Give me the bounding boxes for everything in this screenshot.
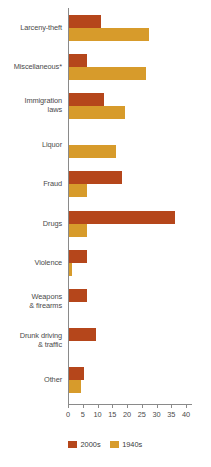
bar-2000s xyxy=(69,367,84,380)
bar-row: Weapons& firearms xyxy=(0,282,211,321)
x-tick-label: 20 xyxy=(123,410,131,419)
x-tick-label: 0 xyxy=(66,410,70,419)
bar-1940s xyxy=(69,67,146,80)
bar-row: Drugs xyxy=(0,204,211,243)
x-tick-label: 35 xyxy=(167,410,175,419)
bar-row: Other xyxy=(0,361,211,400)
category-label: Other xyxy=(0,376,62,385)
bar-row: Violence xyxy=(0,243,211,282)
bar-2000s xyxy=(69,15,101,28)
chart-legend: 2000s1940s xyxy=(68,440,142,449)
x-axis: 0510152025303540 xyxy=(0,404,211,434)
x-tick-label: 10 xyxy=(93,410,101,419)
bar-row: Drunk driving& traffic xyxy=(0,322,211,361)
legend-swatch xyxy=(68,441,77,448)
bar-group xyxy=(69,47,211,86)
x-tick xyxy=(98,404,99,408)
bar-2000s xyxy=(69,171,122,184)
category-label: Immigrationlaws xyxy=(0,97,62,114)
category-label: Violence xyxy=(0,258,62,267)
legend-item[interactable]: 1940s xyxy=(110,440,143,449)
bar-1940s xyxy=(69,380,81,393)
bar-1940s xyxy=(69,106,125,119)
category-label: Weapons& firearms xyxy=(0,293,62,310)
x-tick xyxy=(157,404,158,408)
x-tick xyxy=(142,404,143,408)
bar-1940s xyxy=(69,224,87,237)
bar-row: Immigrationlaws xyxy=(0,86,211,125)
bar-2000s xyxy=(69,289,87,302)
bar-group xyxy=(69,165,211,204)
bar-2000s xyxy=(69,93,104,106)
bar-row: Fraud xyxy=(0,165,211,204)
legend-label: 1940s xyxy=(122,440,142,449)
bar-group xyxy=(69,282,211,321)
x-tick xyxy=(68,404,69,408)
horizontal-bar-chart: Larceny-theftMiscellaneous*Immigrationla… xyxy=(0,0,211,467)
x-tick xyxy=(127,404,128,408)
bar-group xyxy=(69,126,211,165)
bar-group xyxy=(69,86,211,125)
legend-item[interactable]: 2000s xyxy=(68,440,101,449)
x-tick-label: 30 xyxy=(152,410,160,419)
bar-2000s xyxy=(69,328,96,341)
x-tick-label: 25 xyxy=(138,410,146,419)
legend-swatch xyxy=(110,441,119,448)
x-tick-label: 5 xyxy=(81,410,85,419)
bar-group xyxy=(69,8,211,47)
x-tick xyxy=(83,404,84,408)
x-tick xyxy=(112,404,113,408)
bar-2000s xyxy=(69,250,87,263)
category-label: Drunk driving& traffic xyxy=(0,333,62,350)
bar-group xyxy=(69,243,211,282)
x-axis-line xyxy=(68,404,192,405)
bar-row: Larceny-theft xyxy=(0,8,211,47)
category-label: Fraud xyxy=(0,180,62,189)
category-label: Liquor xyxy=(0,141,62,150)
bar-group xyxy=(69,361,211,400)
category-label: Miscellaneous* xyxy=(0,62,62,71)
bar-row: Liquor xyxy=(0,126,211,165)
x-tick xyxy=(171,404,172,408)
bar-2000s xyxy=(69,211,175,224)
category-label: Drugs xyxy=(0,219,62,228)
bar-1940s xyxy=(69,184,87,197)
bar-1940s xyxy=(69,145,116,158)
x-tick-label: 40 xyxy=(182,410,190,419)
x-tick-label: 15 xyxy=(108,410,116,419)
plot-area: Larceny-theftMiscellaneous*Immigrationla… xyxy=(0,0,211,400)
bar-1940s xyxy=(69,263,72,276)
bar-1940s xyxy=(69,28,149,41)
bar-group xyxy=(69,204,211,243)
bar-row: Miscellaneous* xyxy=(0,47,211,86)
legend-label: 2000s xyxy=(81,440,101,449)
bar-rows: Larceny-theftMiscellaneous*Immigrationla… xyxy=(0,8,211,400)
bar-group xyxy=(69,322,211,361)
x-tick xyxy=(186,404,187,408)
category-label: Larceny-theft xyxy=(0,23,62,32)
bar-2000s xyxy=(69,54,87,67)
